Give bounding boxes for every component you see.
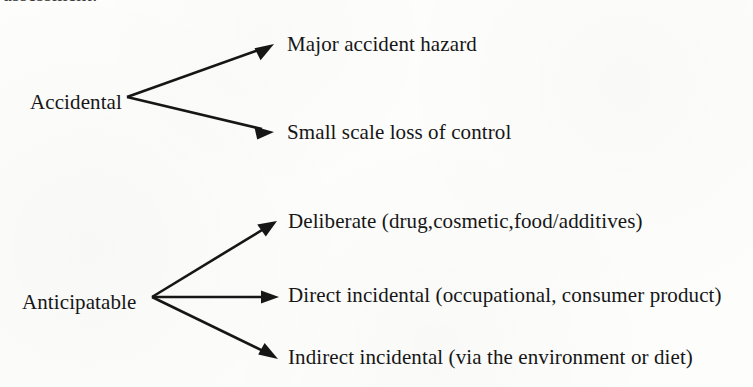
figure-canvas: assessment: Accidental Anticipatable Ma	[0, 0, 753, 387]
node-anticipatable: Anticipatable	[22, 292, 136, 313]
connector-accidental-to-small-scale-loss-of-control	[127, 97, 274, 139]
leaf-direct-incidental: Direct incidental (occupational, consume…	[288, 285, 722, 306]
leaf-deliberate: Deliberate (drug,cosmetic,food/additives…	[288, 211, 643, 232]
connector-accidental-to-major-accident-hazard	[127, 44, 274, 97]
leaf-small-scale-loss-of-control: Small scale loss of control	[287, 122, 511, 143]
leaf-major-accident-hazard: Major accident hazard	[287, 34, 477, 55]
connector-anticipatable-to-direct-incidental	[152, 290, 279, 303]
connector-anticipatable-to-deliberate	[152, 221, 277, 297]
leaf-indirect-incidental: Indirect incidental (via the environment…	[288, 347, 693, 368]
node-accidental: Accidental	[30, 92, 122, 113]
connector-anticipatable-to-indirect-incidental	[152, 297, 278, 359]
connector-layer	[0, 0, 753, 387]
